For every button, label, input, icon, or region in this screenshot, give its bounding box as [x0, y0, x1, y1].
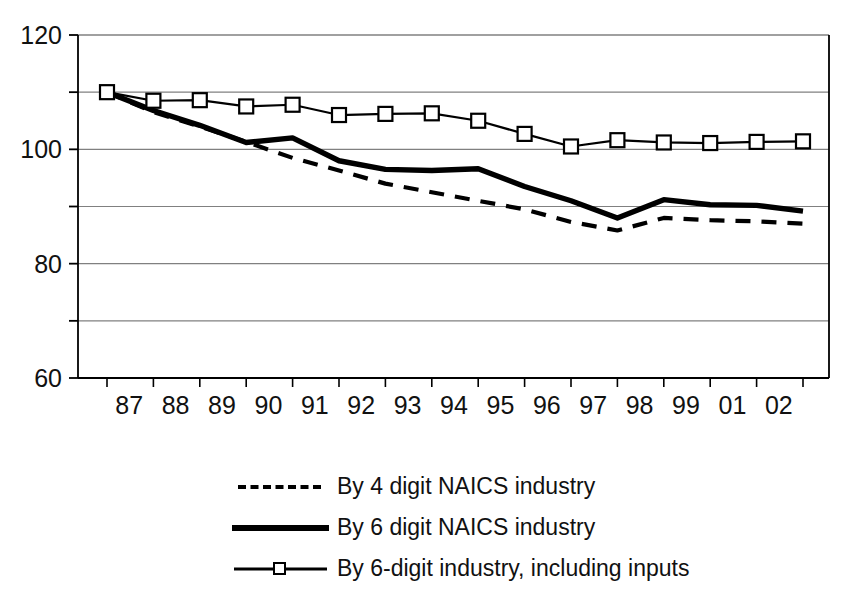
x-tick-label: 98: [626, 391, 654, 419]
legend-item-4digit[interactable]: By 4 digit NAICS industry: [0, 466, 853, 507]
legend-label-6digit-inputs: By 6-digit industry, including inputs: [329, 557, 689, 580]
legend-swatch-dashed: [232, 472, 329, 502]
x-tick-label: 89: [208, 391, 236, 419]
y-axis-ticks: [69, 35, 78, 378]
x-tick-label: 01: [718, 391, 746, 419]
legend-swatch-solid: [232, 513, 329, 543]
gridlines: [78, 35, 829, 321]
legend-label-4digit: By 4 digit NAICS industry: [329, 475, 595, 498]
data-point-marker: [332, 108, 346, 122]
chart-legend: By 4 digit NAICS industry By 6 digit NAI…: [0, 466, 853, 589]
y-axis-tick-labels: 6080100120: [20, 21, 62, 392]
series-line-2: [107, 92, 803, 146]
x-tick-label: 94: [440, 391, 468, 419]
x-tick-label: 95: [486, 391, 514, 419]
series-line-1: [107, 92, 803, 218]
y-tick-label: 80: [34, 250, 62, 278]
data-point-marker: [657, 135, 671, 149]
data-point-marker: [796, 134, 810, 148]
data-point-marker: [610, 133, 624, 147]
line-chart-plot: 6080100120 87888990919293949596979899010…: [0, 0, 853, 466]
chart-figure: 6080100120 87888990919293949596979899010…: [0, 0, 853, 612]
legend-item-6digit[interactable]: By 6 digit NAICS industry: [0, 507, 853, 548]
x-tick-label: 91: [301, 391, 329, 419]
data-point-marker: [425, 106, 439, 120]
square-marker-icon: [273, 562, 286, 575]
data-point-marker: [703, 136, 717, 150]
y-tick-label: 60: [34, 364, 62, 392]
y-tick-label: 120: [20, 21, 62, 49]
data-series-layer: [100, 85, 810, 230]
x-axis-ticks: [107, 378, 803, 387]
x-tick-label: 88: [162, 391, 190, 419]
data-point-marker: [564, 139, 578, 153]
x-tick-label: 99: [672, 391, 700, 419]
y-tick-label: 100: [20, 135, 62, 163]
data-point-marker: [750, 135, 764, 149]
x-tick-label: 02: [765, 391, 793, 419]
data-point-marker: [378, 107, 392, 121]
x-tick-label: 93: [394, 391, 422, 419]
data-point-marker: [471, 114, 485, 128]
data-point-marker: [146, 94, 160, 108]
data-point-marker: [239, 99, 253, 113]
x-tick-label: 97: [579, 391, 607, 419]
x-axis-tick-labels: 878889909192939495969798990102: [115, 391, 792, 419]
data-point-marker: [286, 98, 300, 112]
data-point-marker: [518, 127, 532, 141]
data-point-marker: [193, 93, 207, 107]
x-tick-label: 87: [115, 391, 143, 419]
x-tick-label: 90: [254, 391, 282, 419]
legend-item-6digit-inputs[interactable]: By 6-digit industry, including inputs: [0, 548, 853, 589]
x-tick-label: 92: [347, 391, 375, 419]
dashed-line-icon: [238, 485, 321, 489]
series-line-0: [107, 92, 803, 230]
legend-label-6digit: By 6 digit NAICS industry: [329, 516, 595, 539]
legend-swatch-marker: [232, 554, 329, 584]
data-point-marker: [100, 85, 114, 99]
x-tick-label: 96: [533, 391, 561, 419]
solid-line-icon: [232, 525, 329, 531]
